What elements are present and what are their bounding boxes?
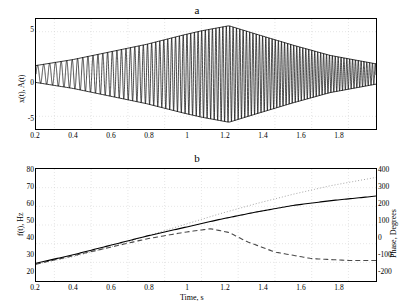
panel-b-xtick-5: 1.2	[213, 283, 237, 292]
panel-a-plot	[36, 19, 376, 129]
panel-b-xlabel: Time, s	[180, 293, 204, 302]
panel-a-axes	[35, 18, 377, 130]
panel-a-xtick-4: 1	[175, 131, 199, 140]
panel-b-xtick-1: 0.4	[61, 283, 85, 292]
panel-b-title: b	[0, 152, 394, 164]
panel-b-ytick-left-6: 20	[6, 267, 34, 276]
chart-panel-a: a x(t), A(t) 5 0 -5 0.2 0.4 0.6 0.8 1 1.…	[0, 0, 394, 150]
panel-b-ytick-right-2: 200	[378, 199, 402, 208]
panel-a-xtick-1: 0.4	[61, 131, 85, 140]
panel-a-ytick-0: 5	[8, 25, 34, 34]
panel-b-ytick-right-1: 300	[378, 182, 402, 191]
panel-b-xtick-7: 1.6	[289, 283, 313, 292]
panel-b-ytick-right-6: -200	[378, 267, 402, 276]
panel-b-ytick-left-2: 60	[6, 199, 34, 208]
panel-a-xtick-0: 0.2	[23, 131, 47, 140]
panel-b-ytick-left-5: 30	[6, 250, 34, 259]
panel-a-xtick-8: 1.8	[327, 131, 351, 140]
panel-a-xtick-7: 1.6	[289, 131, 313, 140]
panel-b-ytick-right-0: 400	[378, 165, 402, 174]
panel-b-ytick-right-5: -100	[378, 250, 402, 259]
panel-b-grid	[36, 169, 376, 281]
panel-b-ytick-left-3: 50	[6, 216, 34, 225]
panel-b-ytick-left-1: 70	[6, 182, 34, 191]
panel-b-xtick-3: 0.8	[137, 283, 161, 292]
panel-a-xtick-2: 0.6	[99, 131, 123, 140]
panel-a-ytick-1: 0	[8, 78, 34, 87]
panel-b-phase-dashed-curve	[36, 229, 376, 264]
panel-b-xtick-6: 1.4	[251, 283, 275, 292]
panel-b-xtick-0: 0.2	[23, 283, 47, 292]
chart-panel-b: b f(t), Hz Phase, Degrees Time, s 80 70 …	[0, 150, 394, 306]
panel-a-title: a	[0, 4, 394, 16]
panel-b-plot	[36, 169, 376, 281]
panel-b-ytick-right-3: 100	[378, 216, 402, 225]
panel-b-axes	[35, 168, 377, 282]
panel-b-xtick-2: 0.6	[99, 283, 123, 292]
panel-a-ytick-2: -5	[8, 114, 34, 123]
panel-b-ytick-left-0: 80	[6, 165, 34, 174]
panel-b-xtick-4: 1	[175, 283, 199, 292]
panel-b-ytick-right-4: 0	[378, 233, 402, 242]
panel-a-xtick-6: 1.4	[251, 131, 275, 140]
panel-b-xtick-8: 1.8	[327, 283, 351, 292]
panel-a-xtick-5: 1.2	[213, 131, 237, 140]
panel-b-ytick-left-4: 40	[6, 233, 34, 242]
panel-a-xtick-3: 0.8	[137, 131, 161, 140]
